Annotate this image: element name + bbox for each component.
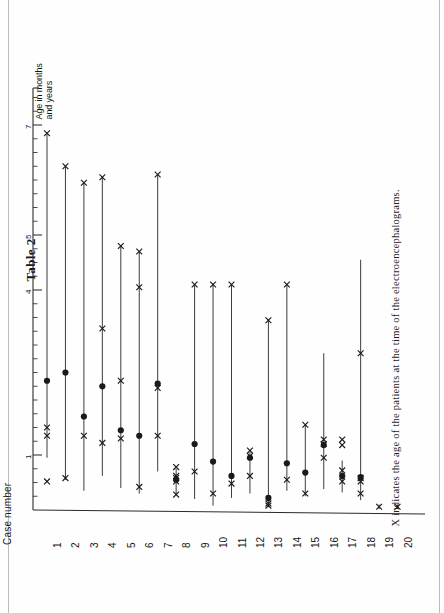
case-tick-label-5: 5 [126, 542, 137, 548]
case-tick-label-6: 6 [144, 542, 155, 548]
case-tick-label-19: 19 [384, 537, 395, 548]
plot-canvas [0, 0, 444, 613]
case-series-2 [62, 163, 68, 481]
case-tick-label-14: 14 [292, 537, 303, 548]
case-series-7 [155, 172, 161, 472]
case-tick-label-18: 18 [366, 537, 377, 548]
case-tick-label-17: 17 [347, 537, 358, 548]
onset-age-dot [302, 470, 308, 476]
onset-age-dot [339, 473, 345, 479]
case-tick-label-4: 4 [107, 542, 118, 548]
case-tick-label-12: 12 [255, 537, 266, 548]
value-tick-label-5: 5 [24, 235, 33, 239]
onset-age-dot [118, 427, 124, 433]
case-series-13 [265, 317, 271, 508]
case-tick-label-20: 20 [403, 537, 414, 548]
onset-age-dot [321, 442, 327, 448]
scanned-page: Table 2 X indicates the age of the patie… [0, 0, 444, 613]
case-tick-label-16: 16 [329, 537, 340, 548]
eeg-age-marker [339, 442, 345, 448]
case-series-20 [395, 504, 401, 510]
case-series-12 [247, 448, 253, 494]
value-tick-label-4: 4 [24, 290, 33, 294]
value-tick-label-7: 7 [24, 125, 33, 129]
case-tick-label-13: 13 [273, 537, 284, 548]
case-tick-label-9: 9 [200, 542, 211, 548]
case-tick-label-15: 15 [310, 537, 321, 548]
onset-age-dot [99, 383, 105, 389]
onset-age-dot [81, 413, 87, 419]
case-series-16 [321, 353, 327, 489]
onset-age-dot [192, 441, 198, 447]
case-series-5 [118, 243, 124, 488]
case-axis-line [33, 510, 425, 514]
series-layer [44, 130, 401, 509]
case-tick-label-8: 8 [181, 542, 192, 548]
case-series-3 [81, 180, 87, 491]
case-tick-label-11: 11 [237, 538, 248, 548]
onset-age-dot [44, 378, 50, 384]
case-series-8 [173, 464, 179, 497]
case-series-10 [210, 282, 216, 506]
case-series-4 [99, 174, 105, 476]
case-series-19 [376, 504, 382, 510]
case-tick-label-3: 3 [89, 542, 100, 548]
case-series-1 [44, 130, 50, 484]
axis-layer [33, 88, 425, 514]
case-series-6 [136, 249, 142, 494]
case-series-18 [358, 260, 364, 500]
value-tick-label-1: 1 [24, 455, 33, 459]
onset-age-dot [228, 473, 234, 479]
range-plot [0, 0, 444, 613]
case-series-11 [228, 282, 234, 498]
case-tick-label-10: 10 [218, 537, 229, 548]
eeg-age-marker [339, 437, 345, 443]
onset-age-dot [136, 433, 142, 439]
onset-age-dot [284, 460, 290, 466]
case-tick-label-1: 1 [52, 542, 63, 548]
case-tick-label-2: 2 [70, 542, 81, 548]
case-series-15 [302, 422, 308, 497]
case-series-14 [284, 282, 290, 491]
onset-age-dot [62, 369, 68, 375]
eeg-age-marker [44, 479, 50, 485]
case-series-17 [339, 437, 345, 493]
onset-age-dot [210, 459, 216, 465]
onset-age-dot [265, 495, 271, 501]
case-tick-label-7: 7 [163, 542, 174, 548]
case-series-9 [192, 282, 198, 499]
